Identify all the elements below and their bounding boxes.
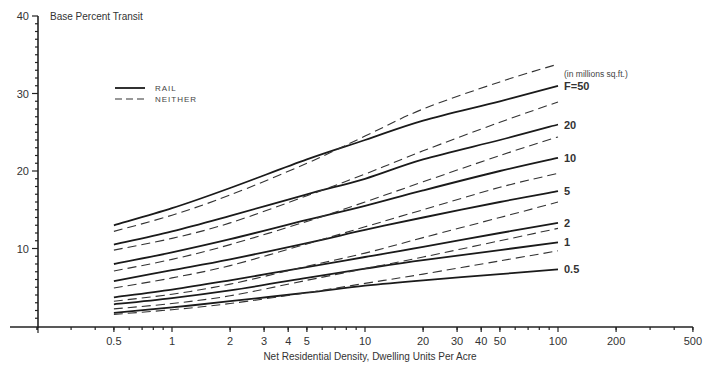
- x-tick-label: 4: [285, 335, 291, 347]
- x-tick-label: 30: [451, 335, 463, 347]
- y-axis-title: Base Percent Transit: [50, 11, 143, 22]
- curve-label: 10: [564, 152, 576, 164]
- x-tick-label: 1: [169, 335, 175, 347]
- x-tick-label: 0.5: [106, 335, 121, 347]
- legend-rail-label: RAIL: [155, 84, 177, 93]
- rail-line-f-0-5: [114, 269, 558, 312]
- curve-label: 5: [564, 185, 570, 197]
- x-tick-label: 200: [607, 335, 625, 347]
- legend-neither-label: NEITHER: [155, 95, 197, 104]
- y-tick-label: 20: [17, 165, 29, 177]
- y-axis: 10203040: [17, 10, 38, 328]
- x-tick-label: 500: [684, 335, 702, 347]
- x-tick-label: 20: [417, 335, 429, 347]
- y-tick-label: 40: [17, 10, 29, 22]
- rail-line-f-10: [114, 158, 558, 264]
- curve-label: 2: [564, 217, 570, 229]
- y-tick-label: 10: [17, 243, 29, 255]
- curve-label: F=50: [564, 80, 589, 92]
- curve-labels: F=5020105210.5: [564, 80, 589, 276]
- x-tick-label: 40: [475, 335, 487, 347]
- neither-line-f-5: [114, 173, 558, 288]
- x-tick-label: 3: [261, 335, 267, 347]
- x-tick-label: 100: [549, 335, 567, 347]
- rail-line-f-20: [114, 125, 558, 245]
- curve-label: 20: [564, 119, 576, 131]
- x-axis: 0.5123451020304050100200500: [10, 327, 702, 347]
- curve-label: 0.5: [564, 263, 579, 275]
- chart: 10203040 0.5123451020304050100200500 F=5…: [0, 0, 718, 380]
- units-note: (in millions sq.ft.): [564, 69, 628, 79]
- legend: RAIL NEITHER: [115, 84, 197, 104]
- x-axis-title: Net Residential Density, Dwelling Units …: [263, 351, 477, 362]
- curve-label: 1: [564, 236, 570, 248]
- neither-line-f-20: [114, 102, 558, 250]
- x-tick-label: 2: [227, 335, 233, 347]
- x-tick-label: 10: [359, 335, 371, 347]
- x-tick-label: 5: [304, 335, 310, 347]
- x-tick-label: 50: [494, 335, 506, 347]
- rail-line-f-1: [114, 242, 558, 304]
- y-tick-label: 30: [17, 88, 29, 100]
